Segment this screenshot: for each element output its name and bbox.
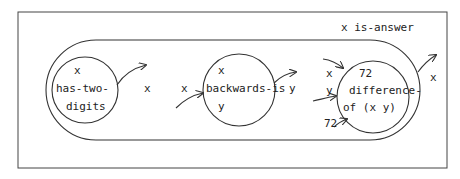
node-difference-of-line-3: of (x y) [343, 101, 396, 114]
arrow-out-has-two-digits [117, 65, 146, 85]
edge-label-in-diff-x: x [326, 67, 333, 80]
node-difference-of [337, 61, 409, 133]
edge-label-in-diff-y: y [326, 84, 333, 97]
edge-label-in-diff-72: 72 [324, 117, 337, 130]
edge-label-out-is-answer: x [430, 71, 437, 84]
edge-label-out-has-two-digits: x [144, 82, 151, 95]
node-difference-of-line-2: difference- [349, 84, 422, 97]
edge-label-in-backwards-is: x [181, 82, 188, 95]
arrow-in-backwards-is [176, 93, 203, 108]
node-has-two-digits-line-1: x [74, 64, 81, 77]
node-backwards-is-line-2: backwards-is [206, 82, 285, 95]
node-difference-of-line-1: 72 [359, 67, 372, 80]
arrow-out-is-answer [418, 55, 436, 72]
node-has-two-digits-line-2: has-two- [56, 82, 109, 95]
node-backwards-is-line-1: x [218, 64, 225, 77]
edge-label-out-backwards-is: y [289, 82, 296, 95]
node-has-two-digits-line-3: digits [66, 100, 106, 113]
is-answer-label: x is-answer [341, 21, 414, 34]
node-backwards-is-line-3: y [218, 100, 225, 113]
